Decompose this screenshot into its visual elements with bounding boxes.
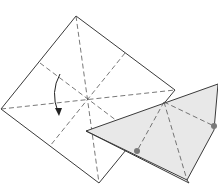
reference-dot-right — [211, 123, 217, 129]
reference-dot-left — [134, 148, 140, 154]
origami-diagram — [0, 0, 218, 186]
